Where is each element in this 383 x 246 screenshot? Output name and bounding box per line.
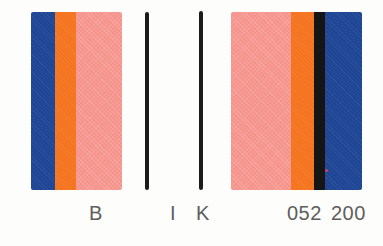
orange-stripe (291, 12, 314, 190)
rule-k (199, 11, 203, 190)
blue-stripe (31, 12, 55, 190)
black-stripe (314, 12, 325, 190)
magenta-dot (325, 169, 328, 172)
right-color-block (231, 12, 362, 190)
left-color-block (31, 12, 122, 190)
orange-stripe (55, 12, 76, 190)
pink-stripe (76, 12, 122, 190)
rule-i (145, 12, 149, 190)
color-specimen-page: B I K 052 200 (0, 0, 383, 246)
label-b: B (89, 202, 103, 224)
label-i: I (170, 202, 176, 224)
blue-stripe (325, 12, 362, 190)
label-k: K (196, 202, 210, 224)
label-code: 052 200 (287, 202, 366, 224)
pink-stripe (231, 12, 291, 190)
